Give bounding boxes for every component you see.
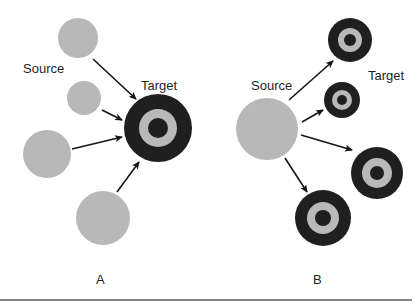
panel-a-sources bbox=[23, 18, 130, 245]
arrow-icon bbox=[302, 110, 323, 122]
target-bullseye bbox=[328, 18, 372, 62]
target-bullseye bbox=[295, 190, 351, 246]
panel-b-source-label: Source bbox=[251, 78, 292, 93]
panel-b: Source Target B bbox=[236, 18, 405, 287]
arrow-icon bbox=[117, 162, 139, 192]
target-bullseye bbox=[351, 147, 403, 199]
arrow-icon bbox=[285, 158, 307, 192]
arrow-icon bbox=[301, 135, 352, 150]
arrow-icon bbox=[102, 110, 122, 120]
arrow-icon bbox=[72, 137, 122, 149]
source-circle bbox=[58, 18, 98, 58]
target-core bbox=[148, 118, 168, 138]
target-core bbox=[315, 210, 331, 226]
panel-a-target bbox=[124, 94, 192, 162]
panel-b-caption: B bbox=[313, 272, 322, 287]
source-circle bbox=[23, 130, 71, 178]
target-core bbox=[344, 34, 356, 46]
diagram-canvas: Source Target A Source Target B bbox=[0, 0, 417, 307]
source-circle bbox=[76, 191, 130, 245]
panel-a-source-label: Source bbox=[23, 61, 64, 76]
panel-b-target-label: Target bbox=[368, 68, 405, 83]
panel-a-caption: A bbox=[96, 272, 105, 287]
target-core bbox=[337, 95, 347, 105]
target-bullseye bbox=[124, 94, 192, 162]
target-core bbox=[370, 166, 384, 180]
panel-b-source bbox=[236, 98, 298, 160]
panel-b-targets bbox=[295, 18, 403, 246]
source-circle bbox=[67, 81, 101, 115]
panel-a-target-label: Target bbox=[141, 78, 178, 93]
panel-a: Source Target A bbox=[23, 18, 192, 287]
source-circle bbox=[236, 98, 298, 160]
target-bullseye bbox=[324, 82, 360, 118]
